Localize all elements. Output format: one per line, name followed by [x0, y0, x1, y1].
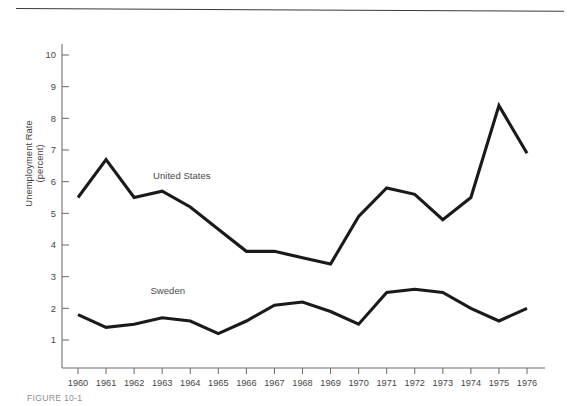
- y-tick-label: 3: [51, 271, 56, 282]
- x-tick-label: 1961: [96, 378, 116, 388]
- series-line-united-states: [78, 106, 527, 264]
- x-tick-label: 1962: [124, 378, 144, 388]
- y-tick-label: 1: [51, 334, 56, 345]
- x-tick-label: 1963: [152, 378, 172, 388]
- x-tick-label: 1969: [320, 378, 340, 388]
- x-tick-label: 1975: [489, 378, 509, 388]
- line-chart-plot: 12345678910 1960196119621963196419651966…: [0, 0, 572, 406]
- x-tick-label: 1973: [433, 378, 453, 388]
- y-tick-label: 8: [51, 113, 56, 124]
- y-tick-label: 10: [46, 49, 56, 60]
- x-tick-label: 1960: [68, 378, 88, 388]
- y-tick-label: 4: [51, 239, 56, 250]
- x-tick-label: 1968: [292, 378, 312, 388]
- x-axis: 1960196119621963196419651966196719681969…: [62, 368, 545, 388]
- x-tick-label: 1971: [376, 378, 396, 388]
- x-tick-label: 1964: [180, 378, 200, 388]
- figure-caption: FIGURE 10-1: [27, 393, 82, 403]
- x-tick-label: 1970: [348, 378, 368, 388]
- y-axis: 12345678910: [46, 44, 69, 368]
- x-tick-label: 1972: [405, 378, 425, 388]
- data-series-group: [78, 106, 527, 334]
- x-tick-label: 1974: [461, 378, 481, 388]
- figure-container: Unemployment Rate (percent) 12345678910 …: [0, 0, 572, 406]
- y-tick-label: 6: [51, 176, 56, 187]
- y-tick-label: 5: [51, 208, 56, 219]
- y-tick-group: 12345678910: [46, 49, 69, 345]
- y-tick-label: 9: [51, 81, 56, 92]
- series-annotation-group: United StatesSweden: [150, 170, 210, 297]
- x-tick-label: 1976: [517, 378, 537, 388]
- series-line-sweden: [78, 289, 527, 333]
- y-tick-label: 7: [51, 144, 56, 155]
- y-tick-label: 2: [51, 303, 56, 314]
- x-tick-label: 1966: [236, 378, 256, 388]
- series-annotation: Sweden: [150, 285, 185, 296]
- x-tick-group: 1960196119621963196419651966196719681969…: [68, 368, 537, 388]
- series-annotation: United States: [153, 170, 211, 181]
- x-tick-label: 1965: [208, 378, 228, 388]
- x-tick-label: 1967: [264, 378, 284, 388]
